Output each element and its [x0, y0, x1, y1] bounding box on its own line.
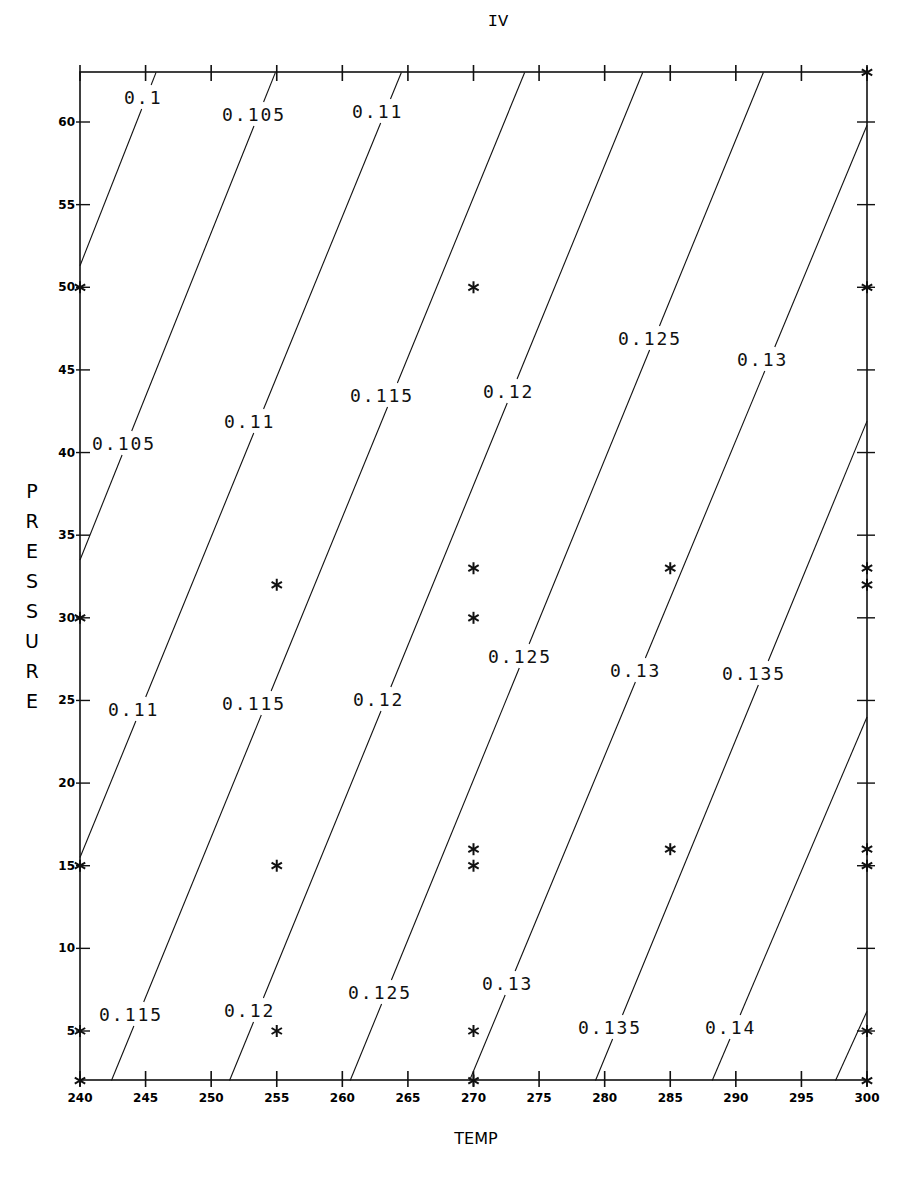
contour-line-0.115: [144, 715, 262, 1002]
asterisk-marker-icon: [665, 562, 675, 574]
x-tick-label: 255: [264, 1091, 289, 1105]
contour-line-0.1: [80, 109, 142, 266]
contour-label: 0.11: [224, 411, 275, 432]
y-tick-label: 25: [58, 693, 75, 707]
contour-label: 0.11: [108, 699, 159, 720]
asterisk-marker-icon: [862, 843, 872, 855]
contour-lines: [80, 72, 867, 1080]
asterisk-marker-icon: [468, 843, 478, 855]
contour-label: 0.12: [224, 1000, 275, 1021]
y-axis-title-letter: E: [26, 540, 38, 562]
contour-line-0.125: [391, 668, 519, 980]
contour-line-0.12: [391, 403, 507, 687]
contour-label: 0.1: [124, 87, 163, 108]
x-tick-label: 275: [527, 1091, 552, 1105]
contour-line-0.125: [529, 350, 649, 644]
x-tick-label: 250: [199, 1091, 224, 1105]
contour-line-unlabeled: [836, 1011, 867, 1080]
contour-label: 0.125: [348, 982, 412, 1003]
contour-label: 0.13: [610, 660, 661, 681]
asterisk-marker-icon: [468, 612, 478, 624]
x-tick-label: 265: [395, 1091, 420, 1105]
x-axis-title: TEMP: [453, 1129, 498, 1148]
contour-label: 0.14: [705, 1017, 756, 1038]
y-axis-title-letter: R: [25, 660, 38, 682]
contour-line-0.12: [230, 1022, 254, 1081]
y-tick-label: 30: [58, 611, 75, 625]
contour-label: 0.13: [482, 973, 533, 994]
contour-label: 0.135: [722, 663, 786, 684]
y-tick-label: 35: [58, 528, 75, 542]
x-tick-label: 295: [789, 1091, 814, 1105]
contour-line-0.13: [645, 371, 764, 658]
contour-label: 0.115: [222, 693, 286, 714]
plot-frame: [80, 72, 867, 1080]
asterisk-marker-icon: [468, 562, 478, 574]
x-axis-ticks: 240245250255260265270275280285290295300: [67, 65, 879, 1105]
asterisk-marker-icon: [665, 843, 675, 855]
contour-label: 0.13: [737, 349, 788, 370]
contour-labels: 0.10.1050.110.1050.110.1150.120.1250.130…: [92, 87, 788, 1038]
contour-label: 0.115: [350, 385, 414, 406]
x-tick-label: 270: [461, 1091, 486, 1105]
contour-line-0.11: [146, 433, 254, 697]
contour-line-0.14: [740, 717, 867, 1015]
y-tick-label: 5: [67, 1024, 75, 1038]
x-tick-label: 260: [330, 1091, 355, 1105]
x-tick-label: 240: [67, 1091, 92, 1105]
y-tick-label: 10: [58, 941, 75, 955]
y-tick-label: 45: [58, 363, 75, 377]
asterisk-marker-icon: [862, 579, 872, 591]
contour-line-0.105: [132, 126, 254, 431]
contour-line-0.105: [80, 455, 122, 560]
y-axis-title-letter: P: [26, 480, 37, 502]
y-axis-title-letter: U: [25, 630, 39, 652]
contour-line-0.135: [768, 421, 867, 661]
contour-label: 0.12: [353, 689, 404, 710]
contour-line-0.13: [515, 682, 635, 971]
data-points: [75, 66, 872, 1086]
contour-label: 0.135: [578, 1017, 642, 1038]
y-tick-label: 60: [58, 115, 75, 129]
contour-label: 0.125: [618, 328, 682, 349]
contour-line-0.11: [264, 123, 381, 409]
x-tick-label: 285: [658, 1091, 683, 1105]
contour-line-0.14: [712, 1039, 730, 1081]
contour-line-0.13: [470, 995, 506, 1081]
contour-line-0.12: [263, 711, 381, 998]
asterisk-marker-icon: [468, 860, 478, 872]
contour-line-0.11: [80, 721, 136, 857]
asterisk-marker-icon: [468, 281, 478, 293]
contour-label: 0.11: [352, 101, 403, 122]
x-tick-label: 280: [592, 1091, 617, 1105]
y-axis-title-letter: E: [26, 690, 38, 712]
y-axis-title-letter: S: [26, 600, 38, 622]
plot-border: [80, 72, 867, 1080]
y-axis-ticks: 51015202530354045505560: [58, 115, 875, 1038]
x-tick-label: 290: [723, 1091, 748, 1105]
asterisk-marker-icon: [272, 579, 282, 591]
y-tick-label: 20: [58, 776, 75, 790]
contour-line-0.125: [350, 1004, 381, 1081]
asterisk-marker-icon: [862, 562, 872, 574]
contour-line-0.115: [397, 72, 524, 383]
y-axis-title-letter: R: [25, 510, 38, 532]
contour-line-0.115: [271, 407, 387, 691]
contour-chart: IV 2402452502552602652702752802852902953…: [0, 0, 906, 1181]
contour-label: 0.125: [488, 646, 552, 667]
asterisk-marker-icon: [272, 1025, 282, 1037]
y-axis-title: PRESSURE: [25, 480, 39, 712]
contour-line-0.105: [264, 72, 276, 102]
x-tick-label: 245: [133, 1091, 158, 1105]
contour-label: 0.12: [483, 381, 534, 402]
asterisk-marker-icon: [468, 1025, 478, 1037]
y-tick-label: 40: [58, 446, 75, 460]
chart-title: IV: [488, 12, 509, 31]
contour-label: 0.115: [99, 1004, 163, 1025]
contour-line-0.115: [111, 1026, 133, 1081]
contour-line-0.125: [659, 72, 763, 326]
y-tick-label: 50: [58, 280, 75, 294]
x-tick-label: 300: [854, 1091, 879, 1105]
y-axis-title-letter: S: [26, 570, 38, 592]
contour-line-0.135: [622, 685, 758, 1015]
